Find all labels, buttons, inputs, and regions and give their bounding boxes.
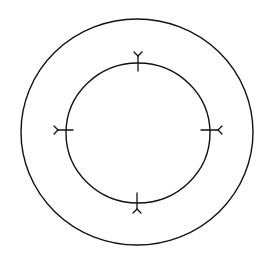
inner-circle	[66, 63, 210, 203]
diagram-svg	[0, 0, 275, 262]
marker-top-y-icon	[134, 52, 142, 71]
marker-left-y-icon	[54, 126, 73, 134]
concentric-circles-diagram	[0, 0, 275, 262]
marker-right-y-icon	[201, 126, 222, 134]
